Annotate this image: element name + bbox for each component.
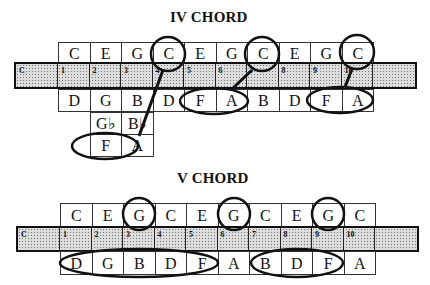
- bar-position: 10: [344, 228, 376, 250]
- bar-position: 9: [312, 228, 344, 250]
- note-cell: F: [90, 134, 123, 157]
- position-number: 2: [95, 230, 99, 239]
- note-cell: A: [216, 89, 249, 112]
- note-cell: E: [186, 203, 219, 227]
- position-number: C: [21, 230, 27, 239]
- note-cell: F: [184, 89, 217, 112]
- note-cell: C: [60, 203, 93, 227]
- note-cell: A: [342, 89, 375, 112]
- position-number: 9: [313, 66, 317, 75]
- bar-position: 3: [121, 64, 153, 87]
- v-chord-title: V CHORD: [177, 170, 249, 187]
- bar-position: 4: [155, 228, 187, 250]
- bar-position: 8: [279, 64, 311, 87]
- note-cell: B♭: [121, 112, 154, 135]
- position-number: 4: [156, 66, 160, 75]
- position-number: 7: [250, 66, 254, 75]
- note-cell: G: [312, 203, 345, 227]
- note-cell: F: [186, 251, 219, 275]
- bar-position: C: [16, 64, 58, 87]
- position-number: 6: [219, 66, 223, 75]
- note-cell: B: [123, 251, 156, 275]
- note-cell: D: [281, 251, 314, 275]
- bar-position: 5: [186, 228, 218, 250]
- note-cell: B: [247, 89, 280, 112]
- note-cell: F: [312, 251, 345, 275]
- note-cell: F: [310, 89, 343, 112]
- note-cell: A: [218, 251, 251, 275]
- position-number: C: [19, 66, 25, 75]
- bar-position: 7: [247, 64, 279, 87]
- position-number: 7: [252, 230, 256, 239]
- note-cell: D: [60, 251, 93, 275]
- bar-position: 4: [153, 64, 185, 87]
- position-number: 8: [284, 230, 288, 239]
- position-number: 9: [315, 230, 319, 239]
- keyboard-bar: C 1 2 3 4 5 6 7 8 9 10: [16, 226, 419, 252]
- note-cell: E: [92, 203, 125, 227]
- position-number: 5: [187, 66, 191, 75]
- bar-position: 6: [216, 64, 248, 87]
- position-number: 8: [282, 66, 286, 75]
- note-cell: G♭: [90, 112, 123, 135]
- bar-position: C: [18, 228, 60, 250]
- position-number: 1: [63, 230, 67, 239]
- bar-position: 3: [123, 228, 155, 250]
- position-number: 10: [347, 230, 355, 239]
- note-cell: D: [155, 251, 188, 275]
- note-cell: D: [153, 89, 186, 112]
- note-cell: G: [92, 251, 125, 275]
- note-cell: C: [344, 203, 377, 227]
- bar-position: 9: [310, 64, 342, 87]
- note-cell: E: [281, 203, 314, 227]
- note-cell: B: [249, 251, 282, 275]
- note-cell: C: [155, 203, 188, 227]
- bar-position: 5: [184, 64, 216, 87]
- note-cell: G: [218, 203, 251, 227]
- note-cell: C: [249, 203, 282, 227]
- position-number: 5: [189, 230, 193, 239]
- note-cell: G: [90, 89, 123, 112]
- bar-position: 2: [92, 228, 124, 250]
- position-number: 3: [126, 230, 130, 239]
- bar-position: 7: [249, 228, 281, 250]
- note-cell: D: [58, 89, 91, 112]
- bar-position: 2: [90, 64, 122, 87]
- note-cell: B: [121, 89, 154, 112]
- bar-position: 6: [218, 228, 250, 250]
- note-cell: A: [344, 251, 377, 275]
- position-number: 2: [93, 66, 97, 75]
- position-number: 10: [345, 66, 353, 75]
- iv-chord-title: IV CHORD: [170, 9, 248, 26]
- bar-position: 1: [58, 64, 90, 87]
- keyboard-bar: C 1 2 3 4 5 6 7 8 9 10: [14, 62, 417, 89]
- note-cell: D: [279, 89, 312, 112]
- bar-position: 10: [342, 64, 374, 87]
- note-cell: G: [123, 203, 156, 227]
- note-cell: A: [121, 134, 154, 157]
- bar-position: 1: [60, 228, 92, 250]
- bar-position: 8: [281, 228, 313, 250]
- position-number: 4: [158, 230, 162, 239]
- position-number: 6: [221, 230, 225, 239]
- position-number: 1: [61, 66, 65, 75]
- position-number: 3: [124, 66, 128, 75]
